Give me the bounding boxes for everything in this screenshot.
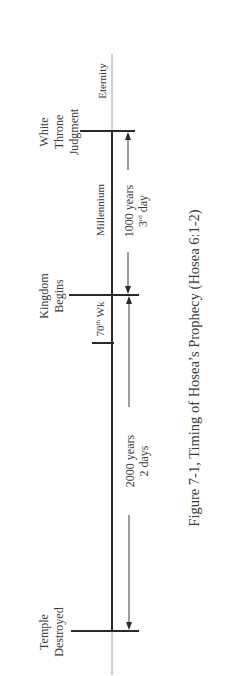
arrowhead-down-icon [126,622,132,630]
kingdom-line1: Kingdom [37,273,51,319]
timeline-diagram: Eternity White Throne Judgment Millenniu… [0,0,237,676]
thousand-years-line1: 1000 years [122,185,136,238]
temple-line2: Destroyed [52,607,66,656]
white-throne-line3: Judgment [67,108,81,155]
kingdom-line2: Begins [52,279,66,313]
temple-destroyed-label: Temple Destroyed [37,607,66,656]
two-thousand-years-line2: 2 days [137,445,151,476]
two-thousand-years-line1: 2000 years [123,435,137,488]
thousand-years-label: 1000 years 3rd day [122,185,150,238]
temple-line1: Temple [37,614,51,650]
two-thousand-years-label: 2000 years 2 days [123,435,151,488]
figure-caption: Figure 7-1, Timing of Hosea’s Prophecy (… [186,209,203,527]
seventieth-week-label: 70th Wk [94,301,106,336]
white-throne-line1: White [37,117,51,146]
arrowhead-up-icon [125,132,131,140]
thousand-years-line2: 3rd day [136,195,150,227]
arrowhead-up-icon [126,296,132,304]
millennium-label: Millennium [94,184,106,236]
white-throne-label: White Throne Judgment [37,108,81,155]
timeline-figure: Eternity White Throne Judgment Millenniu… [0,0,237,676]
eternity-label: Eternity [96,63,108,99]
arrowhead-down-icon [125,286,131,294]
kingdom-begins-label: Kingdom Begins [37,273,66,319]
white-throne-line2: Throne [52,115,66,150]
